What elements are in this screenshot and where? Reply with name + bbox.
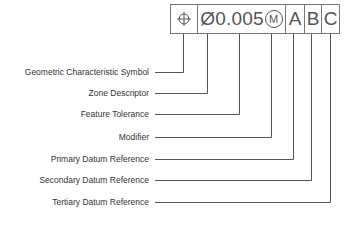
label-secondary-datum-reference: Secondary Datum Reference [39, 175, 149, 185]
leader-zone [155, 34, 208, 94]
leader-feature [155, 34, 240, 115]
leader-geometric [155, 34, 184, 73]
leader-secondary [155, 34, 312, 181]
leader-tertiary [155, 34, 331, 203]
label-tertiary-datum-reference: Tertiary Datum Reference [52, 197, 149, 207]
label-geometric-characteristic-symbol: Geometric Characteristic Symbol [25, 67, 149, 77]
leader-primary [155, 34, 294, 160]
label-feature-tolerance: Feature Tolerance [81, 109, 149, 119]
label-zone-descriptor: Zone Descriptor [89, 88, 149, 98]
label-primary-datum-reference: Primary Datum Reference [51, 154, 149, 164]
label-modifier: Modifier [119, 132, 149, 142]
leader-modifier [155, 34, 272, 138]
